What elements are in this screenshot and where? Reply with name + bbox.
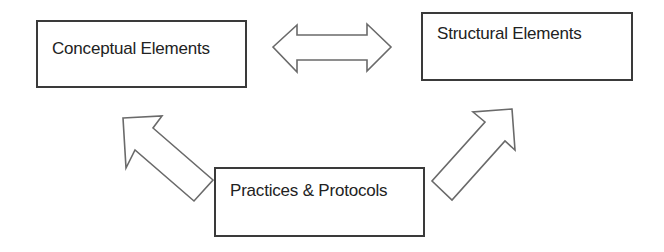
double-arrow-icon — [273, 24, 391, 72]
diagram-canvas: Conceptual Elements Structural Elements … — [0, 0, 664, 252]
structural-elements-label: Structural Elements — [437, 24, 582, 44]
conceptual-elements-box: Conceptual Elements — [36, 20, 247, 88]
practices-protocols-box: Practices & Protocols — [214, 167, 425, 237]
arrow-up-right-icon — [432, 109, 515, 200]
arrow-up-left-icon — [123, 116, 213, 201]
conceptual-elements-label: Conceptual Elements — [52, 39, 210, 59]
structural-elements-box: Structural Elements — [421, 12, 633, 81]
practices-protocols-label: Practices & Protocols — [230, 181, 387, 201]
